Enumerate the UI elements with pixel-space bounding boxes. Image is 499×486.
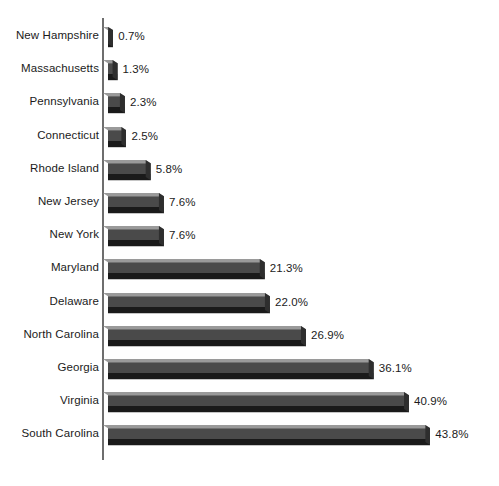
category-label: New York bbox=[0, 226, 99, 243]
value-label: 26.9% bbox=[311, 327, 344, 344]
bar-shape bbox=[103, 293, 270, 314]
bar-row: New Jersey7.6% bbox=[0, 193, 499, 226]
category-label: New Jersey bbox=[0, 193, 99, 210]
bar-massachusetts bbox=[103, 60, 118, 81]
bar-shape bbox=[103, 259, 265, 280]
bar-virginia bbox=[103, 392, 409, 413]
category-label: South Carolina bbox=[0, 425, 99, 442]
category-label: Virginia bbox=[0, 392, 99, 409]
bar-shape bbox=[103, 27, 113, 48]
category-label: New Hampshire bbox=[0, 27, 99, 44]
bar-chart: New Hampshire0.7%Massachusetts1.3%Pennsy… bbox=[0, 0, 499, 486]
category-label: Pennsylvania bbox=[0, 93, 99, 110]
bar-row: Massachusetts1.3% bbox=[0, 60, 499, 93]
bar-row: Maryland21.3% bbox=[0, 259, 499, 292]
bar-north-carolina bbox=[103, 326, 306, 347]
bar-row: South Carolina43.8% bbox=[0, 425, 499, 458]
bar-georgia bbox=[103, 359, 374, 380]
value-label: 36.1% bbox=[379, 360, 412, 377]
plot-area: New Hampshire0.7%Massachusetts1.3%Pennsy… bbox=[0, 0, 499, 486]
bar-row: Rhode Island5.8% bbox=[0, 160, 499, 193]
bar-shape bbox=[103, 160, 151, 181]
bar-shape bbox=[103, 193, 164, 214]
value-label: 40.9% bbox=[414, 393, 447, 410]
bar-rhode-island bbox=[103, 160, 151, 181]
category-label: Delaware bbox=[0, 293, 99, 310]
value-label: 2.5% bbox=[131, 128, 158, 145]
bar-south-carolina bbox=[103, 425, 430, 446]
category-label: Georgia bbox=[0, 359, 99, 376]
bar-shape bbox=[103, 425, 430, 446]
value-label: 7.6% bbox=[169, 227, 196, 244]
bar-connecticut bbox=[103, 127, 126, 148]
category-label: Massachusetts bbox=[0, 60, 99, 77]
bar-pennsylvania bbox=[103, 93, 125, 114]
value-label: 1.3% bbox=[123, 61, 150, 78]
category-label: Connecticut bbox=[0, 127, 99, 144]
bar-row: Virginia40.9% bbox=[0, 392, 499, 425]
bar-row: North Carolina26.9% bbox=[0, 326, 499, 359]
bar-row: Georgia36.1% bbox=[0, 359, 499, 392]
bar-row: New Hampshire0.7% bbox=[0, 27, 499, 60]
bar-maryland bbox=[103, 259, 265, 280]
bar-new-york bbox=[103, 226, 164, 247]
value-label: 21.3% bbox=[270, 260, 303, 277]
category-label: Maryland bbox=[0, 259, 99, 276]
value-label: 43.8% bbox=[435, 426, 468, 443]
bar-row: Pennsylvania2.3% bbox=[0, 93, 499, 126]
category-label: North Carolina bbox=[0, 326, 99, 343]
bar-row: Delaware22.0% bbox=[0, 293, 499, 326]
bar-shape bbox=[103, 326, 306, 347]
value-label: 22.0% bbox=[275, 294, 308, 311]
bar-row: Connecticut2.5% bbox=[0, 127, 499, 160]
bar-shape bbox=[103, 359, 374, 380]
bar-delaware bbox=[103, 293, 270, 314]
bar-shape bbox=[103, 226, 164, 247]
bar-new-jersey bbox=[103, 193, 164, 214]
value-label: 0.7% bbox=[118, 28, 145, 45]
bar-new-hampshire bbox=[103, 27, 113, 48]
bar-row: New York7.6% bbox=[0, 226, 499, 259]
value-label: 7.6% bbox=[169, 194, 196, 211]
value-label: 2.3% bbox=[130, 94, 157, 111]
bar-shape bbox=[103, 93, 125, 114]
category-label: Rhode Island bbox=[0, 160, 99, 177]
bar-shape bbox=[103, 60, 118, 81]
bar-shape bbox=[103, 127, 126, 148]
bar-shape bbox=[103, 392, 409, 413]
value-label: 5.8% bbox=[156, 161, 183, 178]
